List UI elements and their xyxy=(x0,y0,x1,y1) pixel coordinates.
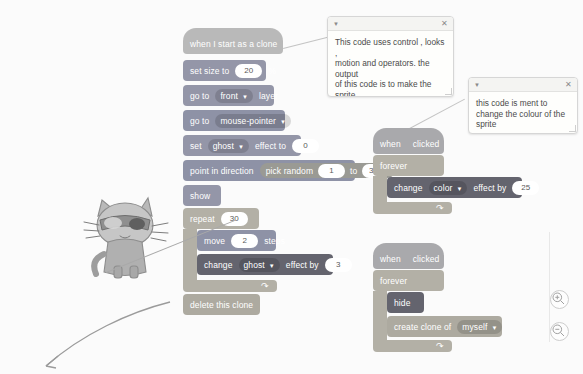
block-create-clone-of[interactable]: create clone of myself ▼ xyxy=(387,316,502,337)
loop-arrow-icon: ↷ xyxy=(436,203,444,213)
chevron-down-icon: ▼ xyxy=(491,325,497,331)
block-label-post: steps xyxy=(264,236,285,246)
block-change-effect-by[interactable]: change ghost ▼ effect by 3 xyxy=(197,254,333,275)
block-when-flag-clicked-color[interactable]: when clicked xyxy=(373,128,444,154)
block-show[interactable]: show xyxy=(183,185,221,206)
chevron-down-icon: ▼ xyxy=(456,186,462,192)
block-label-mid: effect by xyxy=(473,183,506,193)
chevron-down-icon: ▼ xyxy=(242,94,248,100)
random-from-input[interactable]: 1 xyxy=(318,164,345,178)
color-amount-input[interactable]: 25 xyxy=(512,181,539,195)
zoom-in-button[interactable] xyxy=(550,290,569,309)
comment2-titlebar[interactable]: ▼ ✕ xyxy=(469,78,577,92)
steps-input[interactable]: 2 xyxy=(231,234,258,248)
resize-handle[interactable] xyxy=(445,88,452,95)
chevron-down-icon: ▼ xyxy=(269,263,275,269)
forever-loop-foot-spawn: ↷ xyxy=(373,340,452,352)
block-go-to-layer[interactable]: go to front ▼ layer xyxy=(183,85,274,106)
operator-mid-label: to xyxy=(350,166,357,176)
block-label-post: clicked xyxy=(413,254,440,264)
block-label-mid: effect to xyxy=(255,141,286,151)
block-move-steps[interactable]: move 2 steps xyxy=(197,230,276,251)
block-forever-color[interactable]: forever xyxy=(373,155,444,176)
block-forever-spawn[interactable]: forever xyxy=(373,270,444,291)
block-hide[interactable]: hide xyxy=(387,292,424,313)
block-label-pre: when xyxy=(380,139,401,149)
target-dropdown-value: mouse-pointer xyxy=(220,116,276,126)
loop-arrow-icon: ↷ xyxy=(436,341,444,351)
chevron-down-icon: ▼ xyxy=(238,144,244,150)
clone-target-dropdown[interactable]: myself ▼ xyxy=(457,320,502,334)
close-icon[interactable]: ✕ xyxy=(441,20,448,28)
zoom-in-icon xyxy=(551,291,566,306)
block-set-size-to[interactable]: set size to 20 % xyxy=(183,60,266,81)
block-point-in-direction[interactable]: point in direction pick random 1 to 360 xyxy=(183,160,355,181)
block-when-flag-clicked-spawn[interactable]: when clicked xyxy=(373,243,444,269)
forever-loop-foot-color: ↷ xyxy=(373,202,452,214)
comment-titlebar[interactable]: ▼ ✕ xyxy=(328,17,453,31)
block-label: point in direction xyxy=(190,166,254,176)
block-label: forever xyxy=(380,276,407,286)
block-label: repeat xyxy=(190,214,215,224)
clone-target-dropdown-value: myself xyxy=(462,322,487,332)
effect-value-input[interactable]: 0 xyxy=(292,139,319,153)
target-dropdown[interactable]: mouse-pointer ▼ xyxy=(215,114,291,128)
forever-mouth-color xyxy=(373,176,387,202)
comment-main[interactable]: ▼ ✕ This code uses control , looks , mot… xyxy=(327,16,454,97)
effect-dropdown-value: ghost xyxy=(244,260,265,270)
code-canvas[interactable]: ▼ ✕ This code uses control , looks , mot… xyxy=(0,0,583,374)
block-label: change xyxy=(394,183,423,193)
effect-dropdown-value: ghost xyxy=(213,141,234,151)
color-effect-dropdown-value: color xyxy=(434,183,453,193)
cat-sprite xyxy=(80,192,172,284)
block-label: show xyxy=(190,191,210,201)
block-change-color-effect-by[interactable]: change color ▼ effect by 25 xyxy=(387,177,522,198)
block-label: change xyxy=(204,260,233,270)
block-label: delete this clone xyxy=(190,300,253,310)
chevron-down-icon: ▼ xyxy=(280,119,286,125)
block-label: when I start as a clone xyxy=(190,39,277,49)
effect-amount-input[interactable]: 3 xyxy=(325,258,352,272)
block-label: go to xyxy=(190,91,209,101)
close-icon[interactable]: ✕ xyxy=(565,81,572,89)
loop-arrow-icon: ↷ xyxy=(261,281,269,291)
comment2-text: this code is ment to change the colour o… xyxy=(469,92,577,134)
block-label-post: layer xyxy=(259,91,278,101)
size-value-input[interactable]: 20 xyxy=(235,64,262,78)
forever-mouth-spawn xyxy=(373,291,387,340)
effect-dropdown[interactable]: ghost ▼ xyxy=(239,258,280,272)
block-set-effect-to[interactable]: set ghost ▼ effect to 0 xyxy=(183,135,301,156)
block-label-mid: effect by xyxy=(286,260,319,270)
zoom-out-button[interactable] xyxy=(550,322,569,341)
comment-text: This code uses control , looks , motion … xyxy=(328,31,453,97)
repeat-loop-foot: ↷ xyxy=(183,280,277,292)
block-label-pre: when xyxy=(380,254,401,264)
block-label: go to xyxy=(190,116,209,126)
resize-handle[interactable] xyxy=(569,125,576,132)
block-label: set xyxy=(190,141,202,151)
layer-dropdown[interactable]: front ▼ xyxy=(215,89,253,103)
block-delete-this-clone[interactable]: delete this clone xyxy=(183,294,260,315)
operator-label: pick random xyxy=(266,166,313,176)
color-effect-dropdown[interactable]: color ▼ xyxy=(429,181,468,195)
block-label: hide xyxy=(394,298,410,308)
block-go-to-target[interactable]: go to mouse-pointer ▼ xyxy=(183,110,285,131)
comment-connector-line xyxy=(283,37,328,49)
block-label-post: clicked xyxy=(413,139,440,149)
block-when-i-start-as-a-clone[interactable]: when I start as a clone xyxy=(183,28,283,54)
arrow-annotation xyxy=(20,300,180,372)
block-label: move xyxy=(204,236,225,246)
block-label: set size to xyxy=(190,66,229,76)
panel-divider xyxy=(549,232,550,342)
zoom-out-icon xyxy=(551,323,566,338)
effect-dropdown[interactable]: ghost ▼ xyxy=(208,139,249,153)
block-label: create clone of xyxy=(394,322,451,332)
layer-dropdown-value: front xyxy=(220,91,238,101)
triangle-down-icon[interactable]: ▼ xyxy=(333,21,339,27)
triangle-down-icon[interactable]: ▼ xyxy=(474,82,480,88)
block-label-post: % xyxy=(268,66,276,76)
comment-color[interactable]: ▼ ✕ this code is ment to change the colo… xyxy=(468,77,578,134)
block-label: forever xyxy=(380,161,407,171)
